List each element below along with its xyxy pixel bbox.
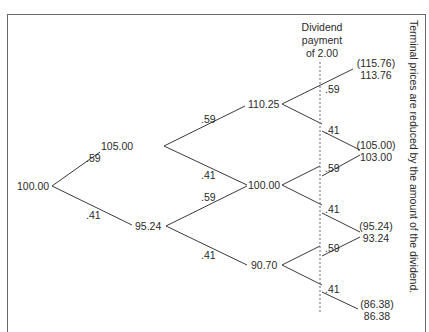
prob-uu-t1: .59 (325, 83, 340, 95)
dividend-note-line3: of 2.00 (300, 47, 344, 60)
prob-d-ud: .59 (201, 191, 216, 203)
edge-ud-t3a (282, 185, 322, 205)
edge-ud-t2a (282, 166, 320, 185)
node-ud: 100.00 (248, 179, 280, 191)
dividend-note: Dividend payment of 2.00 (300, 21, 344, 60)
edge-ud-t3b (322, 213, 360, 232)
prob-d-dd: .41 (201, 249, 216, 261)
tree-edges (0, 0, 429, 332)
prob-dd-t4: .41 (325, 283, 340, 295)
edge-dd-t4a (282, 265, 322, 285)
binomial-tree-diagram: Dividend payment of 2.00 100.00 105.00 9… (0, 0, 429, 332)
terminal-1-before-dividend: (115.76) (356, 57, 396, 69)
terminal-price-note: Terminal prices are reduced by the amoun… (407, 20, 421, 320)
node-d: 95.24 (135, 220, 161, 232)
node-u: 105.00 (101, 140, 133, 152)
edge-dd-t3a (282, 246, 320, 265)
terminal-node-4: (86.38) 86.38 (357, 298, 397, 322)
prob-root-u: .59 (86, 152, 101, 164)
terminal-2-before-dividend: (105.00) (356, 139, 396, 151)
prob-dd-t3: .59 (325, 242, 340, 254)
terminal-4-before-dividend: (86.38) (357, 298, 397, 310)
edge-uu-t1 (282, 69, 353, 104)
prob-ud-t3: .41 (325, 203, 340, 215)
terminal-4-after-dividend: 86.38 (357, 310, 397, 322)
terminal-3-before-dividend: (95.24) (356, 220, 396, 232)
dividend-note-line2: payment (300, 34, 344, 47)
edge-uu-t2a (282, 104, 322, 124)
prob-u-uu: .59 (201, 113, 216, 125)
terminal-3-after-dividend: 93.24 (356, 232, 396, 244)
prob-root-d: .41 (86, 209, 101, 221)
terminal-node-1: (115.76) 113.76 (356, 57, 396, 81)
prob-uu-t2: .41 (325, 124, 340, 136)
terminal-node-2: (105.00) 103.00 (356, 139, 396, 163)
node-root: 100.00 (17, 180, 49, 192)
prob-u-ud: .41 (201, 169, 216, 181)
node-uu: 110.25 (248, 98, 279, 110)
prob-ud-t2: .59 (325, 162, 340, 174)
node-dd: 90.70 (251, 259, 277, 271)
edge-u-uu (164, 106, 245, 146)
terminal-2-after-dividend: 103.00 (356, 151, 396, 163)
dividend-note-line1: Dividend (300, 21, 344, 34)
terminal-1-after-dividend: 113.76 (356, 69, 396, 81)
terminal-node-3: (95.24) 93.24 (356, 220, 396, 244)
